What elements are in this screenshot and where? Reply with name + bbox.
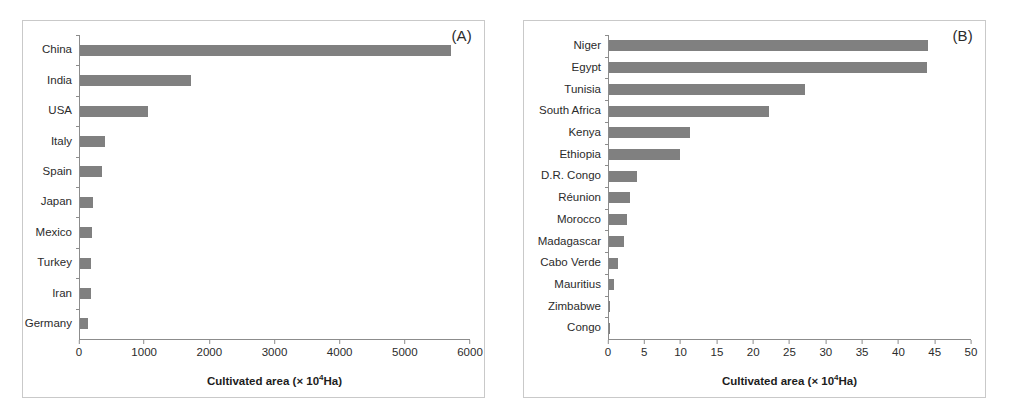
category-label: Turkey [23, 257, 79, 269]
x-tick-label: 25 [783, 347, 796, 359]
bar [609, 171, 637, 182]
category-label: USA [23, 105, 79, 117]
y-axis-tick [605, 165, 609, 166]
plot-area-b: NigerEgyptTunisiaSouth AfricaKenyaEthiop… [524, 21, 985, 397]
bar-track [608, 144, 985, 166]
x-axis-title-a: Cultivated area (× 104Ha) [79, 375, 470, 387]
bar-row: India [23, 65, 484, 95]
x-tick-label: 0 [605, 347, 611, 359]
axis-title-suffix: Ha) [839, 375, 858, 387]
category-label: Italy [23, 136, 79, 148]
x-tick-mark [789, 340, 790, 344]
x-tick-label: 45 [928, 347, 941, 359]
x-tick-label: 5 [641, 347, 647, 359]
category-label: Cabo Verde [524, 257, 608, 269]
y-axis-tick [76, 187, 80, 188]
category-label: Japan [23, 196, 79, 208]
x-tick: 5000 [392, 340, 418, 359]
x-tick-mark [753, 340, 754, 344]
bar-track [79, 96, 484, 126]
bar-row: USA [23, 96, 484, 126]
bar-row: Mexico [23, 217, 484, 247]
x-tick: 4000 [327, 340, 353, 359]
x-tick-mark [404, 340, 405, 344]
bar [609, 84, 805, 95]
y-axis-tick [605, 57, 609, 58]
category-label: Mexico [23, 227, 79, 239]
bar-row: Ethiopia [524, 144, 985, 166]
x-tick-mark [644, 340, 645, 344]
y-axis-tick [76, 278, 80, 279]
bar-row: Niger [524, 35, 985, 57]
bar-rows-a: ChinaIndiaUSAItalySpainJapanMexicoTurkey… [23, 35, 484, 339]
category-label: Egypt [524, 62, 608, 74]
x-tick: 25 [783, 340, 796, 359]
bar-row: Italy [23, 126, 484, 156]
y-axis-tick [76, 35, 80, 36]
category-label: Zimbabwe [524, 301, 608, 313]
bar-track [608, 57, 985, 79]
x-tick: 20 [747, 340, 760, 359]
bar-row: Egypt [524, 57, 985, 79]
y-axis-tick [605, 187, 609, 188]
x-tick: 6000 [457, 340, 483, 359]
bar-track [79, 217, 484, 247]
x-tick: 0 [76, 340, 82, 359]
bar [609, 192, 630, 203]
x-tick-label: 35 [856, 347, 869, 359]
x-tick-label: 20 [747, 347, 760, 359]
y-axis-tick [76, 309, 80, 310]
bar-track [79, 309, 484, 339]
bar [609, 236, 624, 247]
y-axis-tick [76, 65, 80, 66]
bar-track [79, 157, 484, 187]
bar-track [608, 78, 985, 100]
bar [609, 258, 618, 269]
x-tick-label: 0 [76, 347, 82, 359]
bar [609, 62, 927, 73]
x-tick-mark [470, 340, 471, 344]
y-axis-tick [76, 248, 80, 249]
x-tick-mark [716, 340, 717, 344]
bar-rows-b: NigerEgyptTunisiaSouth AfricaKenyaEthiop… [524, 35, 985, 339]
bar-track [79, 35, 484, 65]
bar-row: Réunion [524, 187, 985, 209]
x-tick-label: 1000 [131, 347, 157, 359]
bar [609, 214, 627, 225]
bar-track [79, 278, 484, 308]
bar-track [608, 296, 985, 318]
category-label: Germany [23, 318, 79, 330]
x-tick-mark [274, 340, 275, 344]
x-tick: 3000 [262, 340, 288, 359]
bar-row: D.R. Congo [524, 165, 985, 187]
category-label: D.R. Congo [524, 170, 608, 182]
y-axis-tick [605, 230, 609, 231]
x-tick-label: 2000 [197, 347, 223, 359]
x-tick: 40 [892, 340, 905, 359]
x-tick-label: 6000 [457, 347, 483, 359]
y-axis-tick [76, 157, 80, 158]
bar-row: Morocco [524, 209, 985, 231]
bar [80, 318, 88, 329]
bar [80, 75, 191, 86]
x-tick-mark [898, 340, 899, 344]
bar-row: Zimbabwe [524, 296, 985, 318]
bar-track [608, 209, 985, 231]
y-axis-tick [76, 126, 80, 127]
bar-track [608, 165, 985, 187]
bar-track [608, 187, 985, 209]
bar-row: Iran [23, 278, 484, 308]
x-tick-mark [934, 340, 935, 344]
axis-title-prefix: Cultivated area (× 10 [722, 375, 834, 387]
bar-row: China [23, 35, 484, 65]
bar-row: Japan [23, 187, 484, 217]
bar [609, 40, 928, 51]
x-tick-label: 50 [965, 347, 978, 359]
y-axis-tick [76, 217, 80, 218]
x-tick-mark [970, 340, 971, 344]
bar-row: Germany [23, 309, 484, 339]
bar [609, 323, 610, 334]
x-axis-ticks-a: 0100020003000400050006000 [79, 340, 470, 366]
bar [80, 197, 93, 208]
y-axis-tick [605, 35, 609, 36]
